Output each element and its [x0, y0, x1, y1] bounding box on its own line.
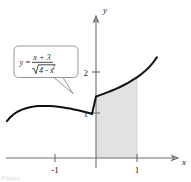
callout-numerator: x + 3	[32, 53, 50, 62]
callout-tail	[54, 78, 73, 94]
y-axis-label: y	[102, 5, 107, 15]
x-tick-label-1: 1	[135, 165, 140, 175]
x-tick-label--1: -1	[51, 165, 59, 175]
plot-svg: y = x + 3 4 - x 2 y x -1 1 1 2	[0, 0, 191, 182]
callout-denominator-exponent: 2	[52, 64, 55, 70]
figure-container: y = x + 3 4 - x 2 y x -1 1 1 2 Figure	[0, 0, 191, 182]
figure-caption: Figure	[2, 174, 20, 182]
callout-equals: =	[26, 58, 31, 67]
y-tick-label-2: 2	[84, 68, 89, 78]
x-axis-label: x	[181, 157, 186, 167]
callout-lhs: y	[19, 58, 24, 67]
y-tick-label-1: 1	[84, 109, 89, 119]
